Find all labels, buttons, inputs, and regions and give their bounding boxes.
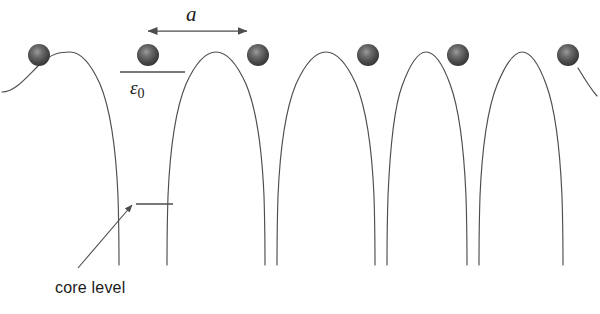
figure-container: a ε0 core level: [0, 0, 600, 314]
energy-level-label: ε0: [130, 78, 145, 101]
core-level-label: core level: [55, 280, 125, 296]
atom-sphere: [247, 44, 269, 66]
potential-hump: [277, 52, 375, 265]
potential-diagram-svg: [0, 0, 600, 314]
core-level-leader-arrow: [78, 205, 132, 268]
potential-hump: [167, 52, 265, 265]
atom-row: [28, 44, 579, 66]
energy-level-symbol: ε: [130, 77, 138, 98]
atom-sphere: [357, 44, 379, 66]
atom-sphere: [557, 44, 579, 66]
atom-sphere: [447, 44, 469, 66]
atom-sphere: [137, 44, 159, 66]
lattice-constant-label: a: [186, 4, 197, 25]
potential-hump-partial-right: [578, 68, 597, 96]
potential-curve-group: [2, 52, 597, 265]
energy-level-subscript: 0: [138, 86, 145, 101]
atom-sphere: [28, 44, 50, 66]
potential-hump: [2, 52, 119, 265]
potential-hump: [387, 52, 467, 265]
potential-hump: [479, 52, 563, 265]
